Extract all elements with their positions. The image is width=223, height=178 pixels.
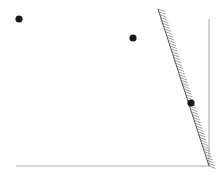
diagram-canvas bbox=[0, 0, 223, 178]
hatched-wall bbox=[158, 9, 216, 168]
wall-hatching bbox=[158, 9, 216, 168]
hatch-stroke bbox=[209, 166, 216, 168]
axes bbox=[16, 19, 209, 166]
wall-line bbox=[158, 9, 209, 166]
point-p1 bbox=[15, 15, 22, 22]
point-p2 bbox=[129, 34, 136, 41]
points bbox=[15, 15, 194, 106]
point-p3 bbox=[187, 99, 194, 106]
diagram-svg bbox=[0, 0, 223, 178]
